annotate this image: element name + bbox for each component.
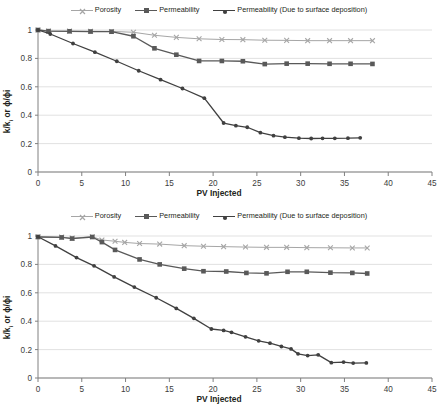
series-square bbox=[36, 235, 370, 276]
data-point-square bbox=[182, 266, 187, 271]
data-point-circle bbox=[230, 330, 234, 334]
y-tick-label: 0.4 bbox=[21, 111, 33, 120]
x-tick-label: 45 bbox=[427, 385, 437, 394]
data-point-square bbox=[284, 61, 289, 66]
data-point-circle bbox=[174, 307, 178, 311]
x-tick-label: 20 bbox=[209, 385, 219, 394]
data-point-square bbox=[224, 269, 229, 274]
plot-area-top: k/ki or ϕ/ϕi 00.20.40.60.810510152025303… bbox=[0, 16, 438, 206]
data-point-square bbox=[327, 61, 332, 66]
y-tick-label: 0.4 bbox=[21, 317, 33, 326]
x-axis-title-bottom: PV Injected bbox=[0, 394, 438, 404]
circle-marker-icon bbox=[213, 6, 235, 15]
series-circle bbox=[36, 28, 362, 140]
data-point-square bbox=[365, 271, 370, 276]
chart-panel-bottom: Porosity Permeability Permea bbox=[0, 206, 438, 413]
data-point-square bbox=[201, 269, 206, 274]
data-point-circle bbox=[71, 42, 75, 46]
x-marker-icon bbox=[71, 6, 93, 15]
data-point-square bbox=[241, 59, 246, 64]
data-point-circle bbox=[115, 59, 119, 63]
x-axis-title-top: PV Injected bbox=[0, 188, 438, 198]
data-point-circle bbox=[48, 32, 52, 36]
data-point-circle bbox=[257, 339, 261, 343]
square-marker-icon bbox=[135, 212, 157, 221]
legend-item-permeability-surface: Permeability (Due to surface deposition) bbox=[213, 212, 367, 221]
x-tick-label: 25 bbox=[252, 385, 262, 394]
plot-area-bottom: k/ki or ϕ/ϕi 00.20.40.60.810510152025303… bbox=[0, 222, 438, 412]
x-tick-label: 5 bbox=[79, 385, 84, 394]
data-point-square bbox=[285, 269, 290, 274]
data-point-square bbox=[197, 59, 202, 64]
data-point-square bbox=[70, 236, 75, 241]
x-tick-label: 0 bbox=[36, 179, 41, 188]
y-axis-title-bottom: k/ki or ϕ/ϕi bbox=[2, 272, 16, 362]
y-tick-label: 0.2 bbox=[21, 140, 33, 149]
data-point-circle bbox=[346, 136, 350, 140]
data-point-circle bbox=[181, 87, 185, 91]
data-point-square bbox=[370, 62, 375, 67]
data-point-circle bbox=[36, 235, 40, 239]
x-tick-label: 35 bbox=[340, 179, 350, 188]
data-point-circle bbox=[92, 264, 96, 268]
data-point-circle bbox=[258, 131, 262, 135]
legend-item-porosity: Porosity bbox=[71, 6, 121, 15]
x-tick-label: 0 bbox=[36, 385, 41, 394]
data-point-circle bbox=[112, 275, 116, 279]
y-axis-title-top: k/ki or ϕ/ϕi bbox=[2, 66, 16, 156]
series-circle bbox=[36, 235, 368, 365]
series-line bbox=[38, 237, 366, 363]
x-tick-label: 40 bbox=[384, 385, 394, 394]
series-line bbox=[38, 30, 360, 138]
data-point-circle bbox=[75, 256, 79, 260]
legend-item-permeability-surface: Permeability (Due to surface deposition) bbox=[213, 6, 367, 15]
y-tick-label: 0 bbox=[27, 374, 32, 383]
data-point-circle bbox=[159, 78, 163, 82]
x-tick-label: 40 bbox=[384, 179, 394, 188]
data-point-circle bbox=[54, 244, 58, 248]
legend-label-permeability-surface: Permeability (Due to surface deposition) bbox=[237, 6, 367, 13]
data-point-square bbox=[109, 29, 114, 34]
data-point-square bbox=[348, 61, 353, 66]
data-point-square bbox=[100, 240, 105, 245]
data-point-circle bbox=[268, 341, 272, 345]
legend-label-permeability-surface: Permeability (Due to surface deposition) bbox=[237, 212, 367, 219]
x-tick-label: 20 bbox=[209, 179, 219, 188]
data-point-circle bbox=[154, 296, 158, 300]
series-square bbox=[36, 28, 375, 67]
data-point-circle bbox=[351, 361, 355, 365]
data-point-circle bbox=[306, 354, 310, 358]
data-point-square bbox=[113, 248, 118, 253]
y-tick-label: 0.6 bbox=[21, 83, 33, 92]
data-point-square bbox=[88, 29, 93, 34]
series-line bbox=[38, 30, 372, 64]
x-tick-label: 45 bbox=[427, 179, 437, 188]
x-tick-label: 30 bbox=[296, 179, 306, 188]
data-point-circle bbox=[132, 285, 136, 289]
data-point-square bbox=[59, 235, 64, 240]
y-tick-label: 0.8 bbox=[21, 54, 33, 63]
legend-item-permeability: Permeability bbox=[135, 212, 199, 221]
data-point-circle bbox=[321, 136, 325, 140]
data-point-circle bbox=[222, 121, 226, 125]
data-point-circle bbox=[137, 69, 141, 73]
x-tick-label: 15 bbox=[165, 179, 175, 188]
data-point-square bbox=[328, 270, 333, 275]
data-point-circle bbox=[283, 135, 287, 139]
data-point-circle bbox=[289, 347, 293, 351]
data-point-circle bbox=[272, 134, 276, 138]
legend-label-permeability: Permeability bbox=[159, 212, 199, 219]
legend-label-porosity: Porosity bbox=[95, 6, 121, 13]
data-point-square bbox=[262, 62, 267, 67]
x-tick-label: 35 bbox=[340, 385, 350, 394]
data-point-circle bbox=[245, 125, 249, 129]
data-point-square bbox=[131, 34, 136, 39]
x-tick-label: 30 bbox=[296, 385, 306, 394]
x-tick-label: 25 bbox=[252, 179, 262, 188]
data-point-square bbox=[174, 52, 179, 57]
series-line bbox=[38, 237, 367, 248]
data-point-square bbox=[157, 262, 162, 267]
two-panel-line-chart-figure: Porosity Permeability Permea bbox=[0, 0, 438, 413]
data-point-circle bbox=[202, 96, 206, 100]
square-marker-icon bbox=[135, 6, 157, 15]
